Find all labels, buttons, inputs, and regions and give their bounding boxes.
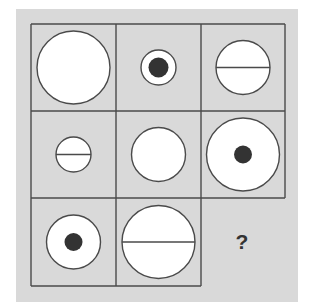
cell-r2c3 xyxy=(207,118,280,191)
center-dot xyxy=(65,233,83,251)
question-mark: ? xyxy=(226,226,258,258)
cell-r2c2 xyxy=(132,128,186,182)
puzzle-grid xyxy=(0,0,310,308)
cell-r3c1 xyxy=(47,215,101,269)
circle-shape xyxy=(37,31,110,104)
cell-r2c1 xyxy=(56,137,91,172)
cell-r1c2 xyxy=(141,50,176,85)
cell-r1c1 xyxy=(37,31,110,104)
center-dot xyxy=(234,146,252,164)
center-dot xyxy=(149,58,169,78)
circle-shape xyxy=(132,128,186,182)
cell-r3c2 xyxy=(122,206,195,279)
cell-r1c3 xyxy=(216,41,270,95)
